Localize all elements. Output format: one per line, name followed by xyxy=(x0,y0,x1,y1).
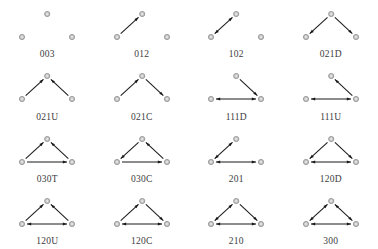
triad-label: 012 xyxy=(95,49,190,59)
arrowhead xyxy=(311,98,315,101)
triad-node-center xyxy=(355,223,357,225)
triad-node-center xyxy=(330,13,332,15)
arrowhead xyxy=(346,222,350,225)
triad-node-center xyxy=(21,36,23,38)
triad-cell: 111U xyxy=(284,62,378,124)
node-group xyxy=(303,74,358,102)
triad-node-center xyxy=(210,223,212,225)
arrowhead xyxy=(346,98,350,101)
triad-node-center xyxy=(260,36,262,38)
triad-node-center xyxy=(305,36,307,38)
triad-node-center xyxy=(305,98,307,100)
triad-node-center xyxy=(260,98,262,100)
triad-node-center xyxy=(21,223,23,225)
edge-group xyxy=(120,17,138,33)
triad-label: 300 xyxy=(284,236,378,246)
arrowhead xyxy=(216,98,220,101)
triad-cell: 120U xyxy=(0,187,95,249)
triad-cell: 102 xyxy=(189,0,284,62)
triad-cell: 003 xyxy=(0,0,95,62)
node-group xyxy=(114,11,169,39)
edge-group xyxy=(215,142,256,163)
triad-label: 120U xyxy=(0,236,95,246)
triad-node-center xyxy=(21,98,23,100)
triad-node-center xyxy=(355,98,357,100)
edge-group xyxy=(120,204,163,225)
triad-node-center xyxy=(210,98,212,100)
triad-node-center xyxy=(330,138,332,140)
triad-node-center xyxy=(71,161,73,163)
arrowhead xyxy=(157,160,161,163)
triad-label: 021D xyxy=(284,49,378,59)
triad-label: 003 xyxy=(0,49,95,59)
arrowhead xyxy=(122,222,126,225)
edge-group xyxy=(120,80,163,96)
node-group xyxy=(19,136,74,164)
triad-cell: 021D xyxy=(284,0,378,62)
edge-group xyxy=(26,204,69,225)
triad-node-center xyxy=(330,200,332,202)
triad-label: 120D xyxy=(284,174,378,184)
triad-cell: 210 xyxy=(189,187,284,249)
triad-node-center xyxy=(166,36,168,38)
arrowhead xyxy=(157,222,161,225)
arrowhead xyxy=(27,222,31,225)
triad-cell: 012 xyxy=(95,0,190,62)
triad-node-center xyxy=(71,223,73,225)
triad-node-center xyxy=(166,98,168,100)
triad-cell: 120C xyxy=(95,187,190,249)
arrowhead xyxy=(252,98,256,101)
node-group xyxy=(19,11,74,39)
edge-group xyxy=(309,17,352,33)
triad-node-center xyxy=(71,36,73,38)
node-group xyxy=(208,11,263,39)
triad-label: 021C xyxy=(95,112,190,122)
triad-label: 210 xyxy=(189,236,284,246)
triad-node-center xyxy=(46,75,48,77)
triad-label: 111U xyxy=(284,112,378,122)
arrowhead xyxy=(346,160,350,163)
triad-node-center xyxy=(116,223,118,225)
node-group xyxy=(114,136,169,164)
node-group xyxy=(303,198,358,226)
edge-group xyxy=(215,17,233,33)
triad-node-center xyxy=(235,138,237,140)
triad-node-center xyxy=(305,161,307,163)
triad-node-center xyxy=(355,36,357,38)
node-group xyxy=(114,74,169,102)
triad-census-grid: 003012102021D021U021C111D111U030T030C201… xyxy=(0,0,378,249)
triad-node-center xyxy=(260,223,262,225)
triad-node-center xyxy=(235,13,237,15)
triad-node-center xyxy=(210,161,212,163)
triad-node-center xyxy=(21,161,23,163)
node-group xyxy=(19,74,74,102)
triad-node-center xyxy=(166,161,168,163)
triad-node-center xyxy=(166,223,168,225)
edge-group xyxy=(26,142,69,163)
triad-node-center xyxy=(46,200,48,202)
triad-cell: 300 xyxy=(284,187,378,249)
triad-label: 120C xyxy=(95,236,190,246)
node-group xyxy=(19,198,74,226)
triad-node-center xyxy=(235,200,237,202)
triad-cell: 021U xyxy=(0,62,95,124)
node-group xyxy=(114,198,169,226)
triad-node-center xyxy=(260,161,262,163)
arrowhead xyxy=(63,222,67,225)
edge-group xyxy=(120,142,163,163)
triad-node-center xyxy=(46,138,48,140)
arrowhead xyxy=(216,222,220,225)
triad-node-center xyxy=(46,13,48,15)
triad-label: 021U xyxy=(0,112,95,122)
node-group xyxy=(208,198,263,226)
triad-node-center xyxy=(116,36,118,38)
triad-node-center xyxy=(141,138,143,140)
edge-group xyxy=(309,204,352,225)
triad-node-center xyxy=(210,36,212,38)
triad-node-center xyxy=(71,98,73,100)
arrowhead xyxy=(252,222,256,225)
triad-node-center xyxy=(305,223,307,225)
triad-node-center xyxy=(330,75,332,77)
node-group xyxy=(303,136,358,164)
node-group xyxy=(208,74,263,102)
